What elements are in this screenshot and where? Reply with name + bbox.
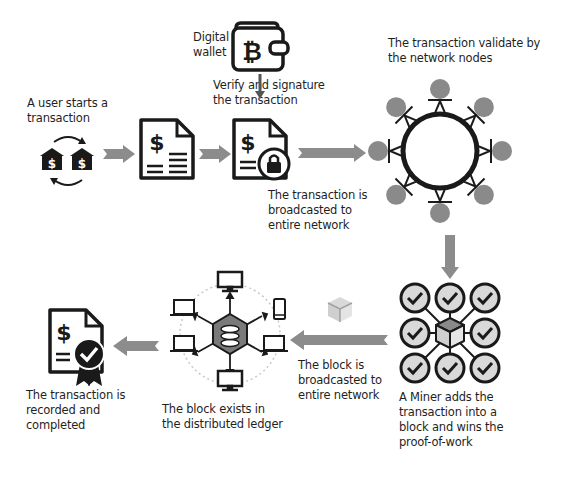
svg-text:$: $ [48,157,56,171]
invoice-document-icon: $ [137,116,197,182]
broadcast-block-label: The block is broadcasted to entire netwo… [298,358,382,403]
svg-text:₿: ₿ [242,38,262,66]
validate-label: The transaction validate by the network … [388,36,540,66]
block-cube-icon [326,295,354,323]
flow-arrow-right-1 [103,145,135,163]
flow-arrow-right-3 [298,144,366,162]
flow-arrow-right-2 [199,145,231,163]
svg-text:$: $ [149,130,164,155]
broadcast-tx-label: The transaction is broadcasted to entire… [268,188,367,233]
verify-label: Verify and signature the transaction [213,78,325,108]
bitcoin-wallet-icon: ₿ [230,20,292,74]
complete-label: The transaction is recorded and complete… [26,388,125,433]
mining-grid-icon [397,280,503,386]
start-label: A user starts a transaction [27,96,108,126]
locked-document-icon: $ [230,116,294,182]
flow-arrow-down [441,235,459,279]
ledger-label: The block exists in the distributed ledg… [162,402,283,432]
wallet-label: Digital wallet [193,30,229,60]
flow-arrow-left-1 [290,330,388,350]
svg-text:$: $ [240,130,255,155]
bank-exchange-icon: $ $ [36,130,100,190]
svg-text:$: $ [56,320,71,345]
network-ring-icon [365,75,515,227]
svg-text:$: $ [78,157,86,171]
distributed-ledger-icon [166,268,294,400]
flow-arrow-left-2 [113,336,159,356]
down-arrow-icon [255,74,265,100]
miner-label: A Miner adds the transaction into a bloc… [399,390,503,450]
certified-document-icon: $ [46,306,112,388]
